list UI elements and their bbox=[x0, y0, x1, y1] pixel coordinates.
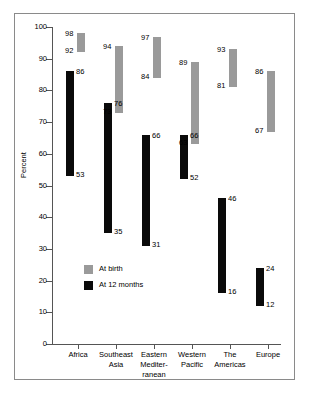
legend-label: At birth bbox=[99, 264, 123, 273]
category-label-line: Europe bbox=[241, 350, 295, 360]
bar-value-label: 93 bbox=[217, 46, 225, 54]
bar-12months-europe bbox=[256, 268, 264, 306]
x-axis-tick bbox=[78, 344, 79, 349]
bar-value-label: 12 bbox=[266, 301, 274, 309]
bar-value-label: 81 bbox=[217, 82, 225, 90]
bar-value-label: 94 bbox=[103, 43, 111, 51]
x-axis-tick bbox=[116, 344, 117, 349]
legend-label: At 12 months bbox=[99, 280, 143, 289]
bar-value-label: 66 bbox=[152, 132, 160, 140]
y-axis-tick-label: 10 bbox=[17, 308, 47, 316]
y-axis-tick-label: 0 bbox=[17, 340, 47, 348]
range-bar-chart: Percent 1009080706050403020100 989286539… bbox=[0, 0, 311, 398]
category-label-line: ranean bbox=[127, 370, 181, 380]
bar-value-label: 92 bbox=[65, 47, 73, 55]
category-label-europe: Europe bbox=[241, 350, 295, 360]
y-axis-tick-label: 50 bbox=[17, 182, 47, 190]
x-axis-tick bbox=[268, 344, 269, 349]
legend-swatch bbox=[84, 265, 93, 274]
bar-value-label: 52 bbox=[190, 174, 198, 182]
y-axis-tick-label: 80 bbox=[17, 86, 47, 94]
bar-atbirth-the-americas bbox=[229, 49, 237, 87]
bar-value-label: 63 bbox=[179, 139, 187, 147]
x-axis-tick bbox=[230, 344, 231, 349]
bar-value-label: 67 bbox=[255, 127, 263, 135]
bar-atbirth-europe bbox=[267, 71, 275, 131]
y-axis-tick-label: 70 bbox=[17, 118, 47, 126]
bar-12months-eastern-mediterranean bbox=[142, 135, 150, 246]
bar-12months-the-americas bbox=[218, 198, 226, 293]
bar-value-label: 84 bbox=[141, 73, 149, 81]
bar-12months-africa bbox=[66, 71, 74, 176]
y-axis-tick-label: 90 bbox=[17, 55, 47, 63]
y-axis-tick-label: 20 bbox=[17, 277, 47, 285]
bar-atbirth-africa bbox=[77, 33, 85, 52]
bar-value-label: 73 bbox=[103, 108, 111, 116]
y-axis-tick-label: 40 bbox=[17, 213, 47, 221]
bar-value-label: 98 bbox=[65, 30, 73, 38]
bar-atbirth-eastern-mediterranean bbox=[153, 37, 161, 78]
category-label-line: Americas bbox=[203, 360, 257, 370]
y-axis-tick-label: 100 bbox=[17, 23, 47, 31]
y-axis-line bbox=[52, 27, 53, 345]
x-axis-tick bbox=[192, 344, 193, 349]
bar-value-label: 31 bbox=[152, 241, 160, 249]
bar-value-label: 97 bbox=[141, 34, 149, 42]
x-axis-tick bbox=[154, 344, 155, 349]
bar-value-label: 16 bbox=[228, 288, 236, 296]
bar-value-label: 46 bbox=[228, 195, 236, 203]
bar-value-label: 86 bbox=[255, 68, 263, 76]
legend-swatch bbox=[84, 281, 93, 290]
x-axis-line bbox=[52, 344, 281, 345]
bar-value-label: 24 bbox=[266, 265, 274, 273]
bar-value-label: 86 bbox=[76, 68, 84, 76]
y-axis-tick-label: 60 bbox=[17, 150, 47, 158]
bar-value-label: 76 bbox=[114, 100, 122, 108]
bar-value-label: 66 bbox=[190, 132, 198, 140]
y-axis-tick-label: 30 bbox=[17, 245, 47, 253]
bar-12months-southeast-asia bbox=[104, 103, 112, 233]
bar-value-label: 35 bbox=[114, 228, 122, 236]
bar-value-label: 89 bbox=[179, 59, 187, 67]
bar-value-label: 53 bbox=[76, 171, 84, 179]
